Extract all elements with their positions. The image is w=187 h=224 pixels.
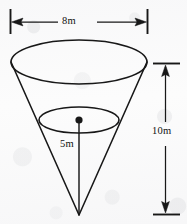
inner-radius-label: 5m	[60, 139, 74, 150]
top-diameter-label: 8m	[62, 16, 76, 27]
radius-annotation-group	[75, 116, 82, 215]
width-right-arrowhead	[135, 18, 147, 26]
cone-diagram-figure: 8m 10m 5m	[0, 0, 187, 224]
center-dot-icon	[75, 116, 82, 123]
width-dimension-group	[11, 9, 148, 34]
cone-top-rim-ellipse	[11, 40, 147, 84]
width-left-arrowhead	[12, 18, 24, 26]
height-bottom-arrowhead	[162, 202, 170, 214]
total-height-label: 10m	[152, 126, 171, 137]
cone-diagram-svg	[0, 0, 187, 224]
cone-right-slant-edge	[79, 62, 147, 215]
height-dimension-group	[153, 64, 180, 215]
height-top-arrowhead	[162, 65, 170, 77]
